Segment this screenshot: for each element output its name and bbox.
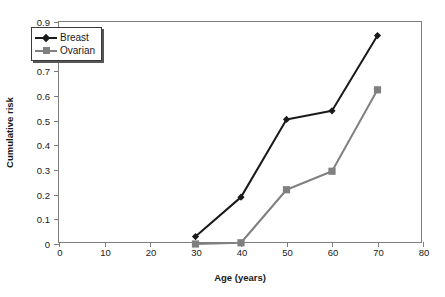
y-axis-tick: 0.7 xyxy=(54,71,59,72)
legend-swatch-ovarian xyxy=(35,44,57,57)
x-axis-tick: 20 xyxy=(150,242,151,247)
series-layer xyxy=(59,22,423,244)
legend: Breast Ovarian xyxy=(31,27,102,61)
square-marker-icon xyxy=(43,47,50,54)
y-axis-tick-label: 0.2 xyxy=(37,191,50,201)
series-line xyxy=(196,90,378,244)
square-marker-icon xyxy=(374,86,381,93)
y-axis-tick: 0.5 xyxy=(54,121,59,122)
y-axis-tick-label: 0.3 xyxy=(37,166,50,176)
x-axis-tick: 0 xyxy=(59,242,60,247)
x-axis-tick: 70 xyxy=(378,242,379,247)
x-axis-tick-label: 20 xyxy=(146,248,157,258)
chart-figure: Cumulative risk 00.10.20.30.40.50.60.70.… xyxy=(0,0,445,297)
y-axis-title: Cumulative risk xyxy=(0,21,18,243)
square-marker-icon xyxy=(328,168,335,175)
y-axis-tick: 0.4 xyxy=(54,145,59,146)
x-axis-tick: 30 xyxy=(196,242,197,247)
y-axis-tick: 0.2 xyxy=(54,195,59,196)
series-line xyxy=(196,36,378,237)
x-axis-tick: 80 xyxy=(423,242,424,247)
x-axis-tick-label: 80 xyxy=(419,248,430,258)
x-axis-tick-label: 30 xyxy=(191,248,202,258)
series-ovarian xyxy=(192,86,381,247)
x-axis-title: Age (years) xyxy=(58,272,422,283)
diamond-marker-icon xyxy=(42,33,50,41)
x-axis-tick: 10 xyxy=(105,242,106,247)
x-axis-tick-label: 70 xyxy=(373,248,384,258)
y-axis-tick: 0.6 xyxy=(54,96,59,97)
legend-item-ovarian: Ovarian xyxy=(35,44,95,57)
legend-label-ovarian: Ovarian xyxy=(60,46,95,56)
y-axis-tick: 0.9 xyxy=(54,22,59,23)
x-axis-tick-label: 60 xyxy=(328,248,339,258)
x-axis-tick-label: 0 xyxy=(57,248,62,258)
legend-swatch-breast xyxy=(35,31,57,44)
y-axis-tick-label: 0.5 xyxy=(37,117,50,127)
x-axis-tick: 60 xyxy=(332,242,333,247)
y-axis-tick-label: 0.1 xyxy=(37,216,50,226)
y-axis-tick: 0.1 xyxy=(54,219,59,220)
x-axis-tick-label: 50 xyxy=(282,248,293,258)
y-axis-title-text: Cumulative risk xyxy=(4,97,15,168)
x-axis-tick: 50 xyxy=(287,242,288,247)
legend-label-breast: Breast xyxy=(60,33,89,43)
legend-item-breast: Breast xyxy=(35,31,95,44)
y-axis-tick-label: 0.7 xyxy=(37,68,50,78)
y-axis-tick-label: 0 xyxy=(45,240,50,250)
y-axis-tick-label: 0.4 xyxy=(37,142,50,152)
x-axis-tick-label: 40 xyxy=(237,248,248,258)
square-marker-icon xyxy=(283,186,290,193)
y-axis-tick: 0.3 xyxy=(54,170,59,171)
x-axis-tick: 40 xyxy=(241,242,242,247)
plot-area: 00.10.20.30.40.50.60.70.80.9010203040506… xyxy=(58,21,422,243)
x-axis-tick-label: 10 xyxy=(100,248,111,258)
y-axis-tick-label: 0.6 xyxy=(37,92,50,102)
